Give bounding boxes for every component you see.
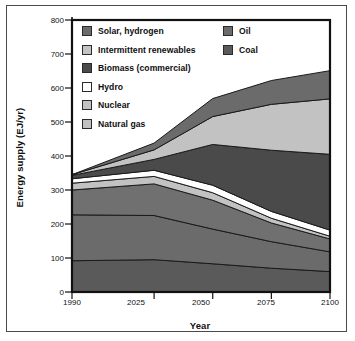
legend-label-oil: Oil <box>239 26 251 36</box>
chart-legend: Solar, hydrogen Intermittent renewables … <box>82 22 322 140</box>
y-tick-label-600: 600 <box>38 84 64 93</box>
legend-column-right: Oil Coal <box>223 22 258 59</box>
legend-swatch-icon-natural-gas <box>82 119 92 129</box>
x-tick-label-2075: 2075 <box>249 298 283 307</box>
legend-swatch-icon-nuclear <box>82 100 92 110</box>
x-tick-label-2025: 2025 <box>119 298 153 307</box>
legend-item-solar-hydrogen: Solar, hydrogen <box>82 22 196 41</box>
legend-label-hydro: Hydro <box>98 82 123 92</box>
legend-swatch-icon-intermittent-renewables <box>82 45 92 55</box>
y-tick-label-300: 300 <box>38 186 64 195</box>
legend-swatch-icon-oil <box>223 26 233 36</box>
figure-root: Energy supply (EJ/yr) Year 800 700 600 5… <box>0 0 355 341</box>
legend-swatch-icon-hydro <box>82 82 92 92</box>
x-tick-label-2050: 2050 <box>184 298 218 307</box>
legend-label-nuclear: Nuclear <box>98 100 130 110</box>
legend-item-hydro: Hydro <box>82 78 196 97</box>
legend-item-biomass-commercial: Biomass (commercial) <box>82 59 196 78</box>
y-tick-label-100: 100 <box>38 254 64 263</box>
legend-swatch-icon-coal <box>223 45 233 55</box>
y-tick-label-400: 400 <box>38 152 64 161</box>
legend-item-intermittent-renewables: Intermittent renewables <box>82 41 196 60</box>
x-axis-label: Year <box>160 320 240 331</box>
y-tick-label-800: 800 <box>38 16 64 25</box>
y-tick-label-200: 200 <box>38 220 64 229</box>
x-tick-label-2100: 2100 <box>313 298 347 307</box>
legend-item-oil: Oil <box>223 22 258 41</box>
legend-label-solar-hydrogen: Solar, hydrogen <box>98 26 164 36</box>
y-tick-label-0: 0 <box>38 288 64 297</box>
x-tick-label-1990: 1990 <box>55 298 89 307</box>
legend-label-intermittent-renewables: Intermittent renewables <box>98 45 196 55</box>
legend-swatch-icon-biomass-commercial <box>82 63 92 73</box>
legend-item-coal: Coal <box>223 41 258 60</box>
legend-label-coal: Coal <box>239 45 258 55</box>
legend-swatch-icon-solar-hydrogen <box>82 26 92 36</box>
legend-item-natural-gas: Natural gas <box>82 115 196 134</box>
y-axis-label: Energy supply (EJ/yr) <box>14 98 25 218</box>
legend-label-natural-gas: Natural gas <box>98 119 145 129</box>
legend-column-left: Solar, hydrogen Intermittent renewables … <box>82 22 196 133</box>
y-tick-label-700: 700 <box>38 50 64 59</box>
y-tick-label-500: 500 <box>38 118 64 127</box>
legend-item-nuclear: Nuclear <box>82 96 196 115</box>
legend-label-biomass-commercial: Biomass (commercial) <box>98 63 191 73</box>
